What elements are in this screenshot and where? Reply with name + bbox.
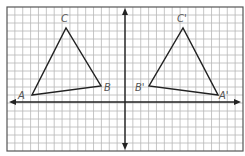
vertex-label-b: B <box>104 82 111 93</box>
vertex-label-c-prime: C' <box>177 13 187 24</box>
triangle-abc <box>32 28 101 95</box>
x-axis-right-arrow-icon <box>234 99 241 105</box>
x-axis-left-arrow-icon <box>9 99 16 105</box>
vertex-label-b-prime: B' <box>135 82 145 93</box>
vertex-label-a-prime: A' <box>218 90 229 101</box>
triangle-a-prime-b-prime-c-prime <box>149 28 218 95</box>
vertex-label-a: A <box>17 90 25 101</box>
vertex-label-c: C <box>61 13 68 24</box>
y-axis-up-arrow-icon <box>122 8 128 15</box>
y-axis-down-arrow-icon <box>122 143 128 150</box>
reflection-diagram: A B C A' B' C' <box>0 0 245 156</box>
coordinate-plane-figure: A B C A' B' C' <box>0 0 245 156</box>
